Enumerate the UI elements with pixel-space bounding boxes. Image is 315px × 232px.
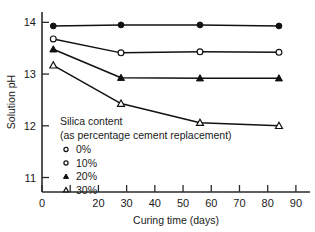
y-tick-label: 13 xyxy=(24,68,36,80)
x-tick-label: 50 xyxy=(177,197,189,209)
legend-entry-10pct: 10% xyxy=(64,157,97,169)
x-tick-label: 90 xyxy=(290,197,302,209)
marker-open-circle xyxy=(118,50,124,56)
legend-entry-20pct: 20% xyxy=(63,170,97,182)
marker-filled-triangle xyxy=(63,174,68,178)
marker-open-triangle xyxy=(63,187,68,191)
x-axis-title: Curing time (days) xyxy=(133,214,219,226)
y-tick-label: 11 xyxy=(25,172,36,184)
marker-open-triangle xyxy=(50,62,57,68)
marker-open-circle xyxy=(64,161,68,165)
marker-open-circle xyxy=(276,49,282,55)
x-tick-label: 40 xyxy=(149,197,161,209)
legend-entry-label: 10% xyxy=(76,157,97,169)
series-polyline xyxy=(53,49,279,78)
x-tick-label: 0 xyxy=(39,197,45,209)
y-axis-ticks xyxy=(42,22,49,177)
chart-legend: Silica content (as percentage cement rep… xyxy=(60,115,232,196)
legend-entries: 0%10%20%30% xyxy=(63,143,97,196)
legend-title-line1: Silica content xyxy=(60,115,123,127)
x-axis-tick-labels: 02030405060708090 xyxy=(39,197,302,209)
series-10pct xyxy=(50,36,281,56)
legend-entry-label: 30% xyxy=(76,184,97,196)
series-polyline xyxy=(53,25,279,26)
y-axis-tick-labels: 11121314 xyxy=(24,16,36,183)
x-tick-label: 80 xyxy=(262,197,274,209)
ph-vs-curing-time-line-chart: 11121314 02030405060708090 Solution pH C… xyxy=(0,0,315,232)
x-tick-label: 60 xyxy=(205,197,217,209)
y-tick-label: 14 xyxy=(24,16,36,28)
marker-filled-triangle xyxy=(50,46,57,52)
y-axis-title: Solution pH xyxy=(5,75,17,129)
series-polyline xyxy=(53,39,279,53)
x-tick-label: 30 xyxy=(121,197,133,209)
marker-open-circle xyxy=(50,36,56,42)
y-tick-label: 12 xyxy=(24,120,36,132)
legend-title-line2: (as percentage cement replacement) xyxy=(60,129,232,141)
marker-filled-circle xyxy=(118,22,124,28)
marker-open-triangle xyxy=(117,100,124,106)
marker-open-circle xyxy=(197,49,203,55)
marker-open-circle xyxy=(64,147,68,151)
series-20pct xyxy=(50,46,283,81)
legend-entry-30pct: 30% xyxy=(63,184,97,196)
chart-figure: 11121314 02030405060708090 Solution pH C… xyxy=(0,0,315,232)
x-tick-label: 20 xyxy=(92,197,104,209)
marker-filled-circle xyxy=(197,22,203,28)
marker-filled-circle xyxy=(50,23,56,29)
series-0pct xyxy=(50,22,281,29)
marker-filled-circle xyxy=(276,23,282,29)
legend-entry-label: 0% xyxy=(76,143,91,155)
legend-entry-label: 20% xyxy=(76,170,97,182)
chart-series-layer xyxy=(50,22,283,128)
x-tick-label: 70 xyxy=(233,197,245,209)
legend-entry-0pct: 0% xyxy=(64,143,91,155)
